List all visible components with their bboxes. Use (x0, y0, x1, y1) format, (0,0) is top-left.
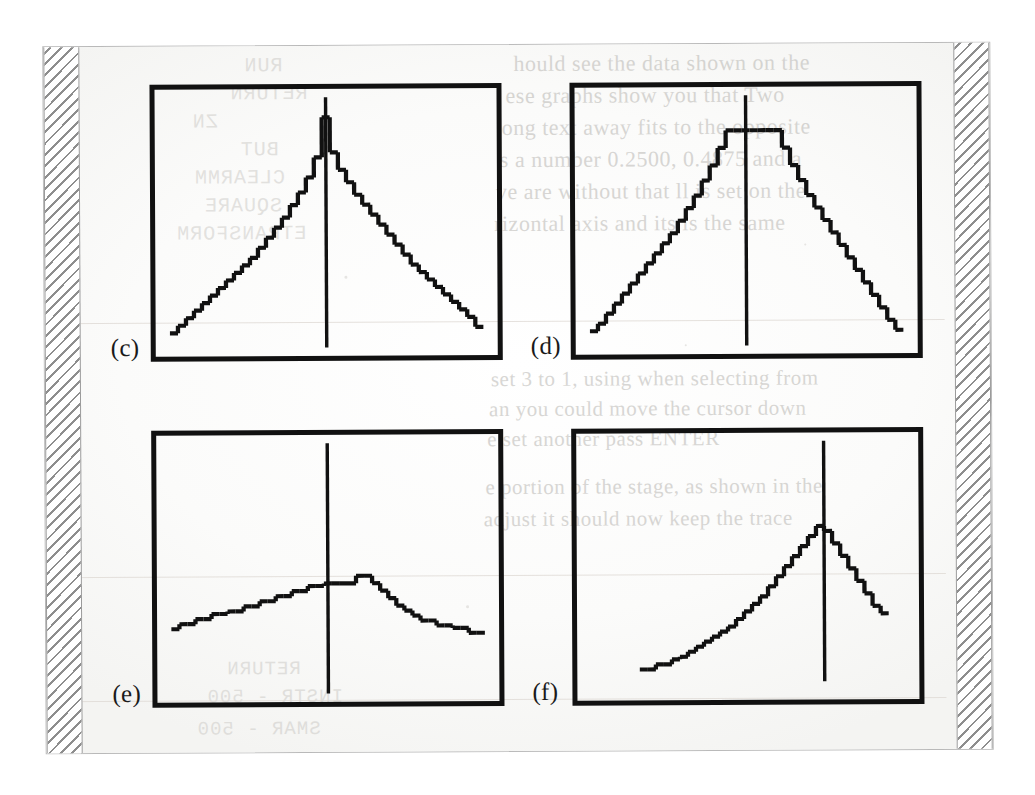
paper-sheet: hould see the data shown on the ese grap… (42, 42, 993, 755)
hatched-band-left (43, 47, 82, 753)
vertical-cursor-line (824, 441, 825, 681)
plot-c-svg (154, 88, 497, 357)
plot-panel-c (149, 83, 502, 362)
plot-e-svg (156, 434, 499, 703)
panel-label-f: (f) (532, 679, 558, 704)
panel-label-d: (d) (531, 333, 561, 358)
panel-label-e: (e) (112, 681, 141, 706)
plot-panel-f (571, 427, 924, 706)
plot-f-svg (576, 432, 919, 701)
vertical-cursor-line (327, 443, 328, 693)
hatched-band-right (953, 43, 992, 749)
panel-label-c: (c) (111, 335, 140, 360)
plot-panel-e (151, 429, 504, 708)
vertical-cursor-line (326, 97, 327, 347)
plot-d-svg (574, 86, 917, 355)
plot-panel-d (569, 81, 922, 360)
scanned-page: hould see the data shown on the ese grap… (0, 0, 1035, 795)
vertical-cursor-line (746, 95, 747, 345)
